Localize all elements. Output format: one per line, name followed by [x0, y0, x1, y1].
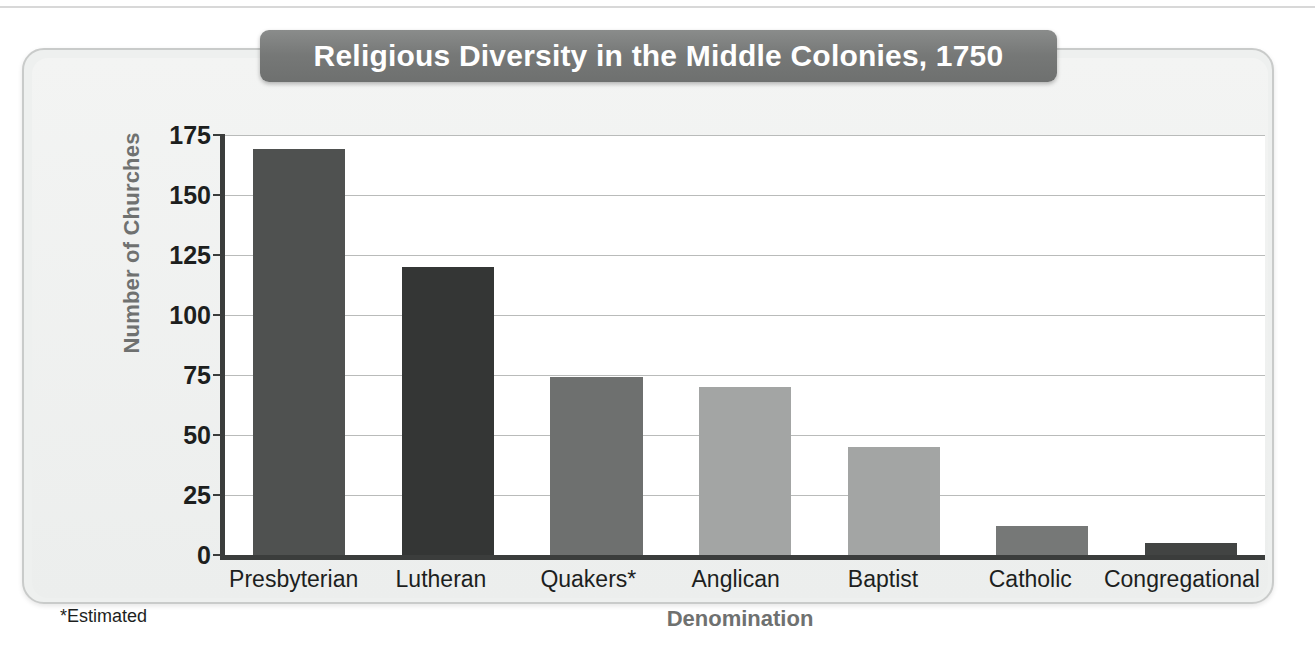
y-axis-tick-label: 0 — [121, 541, 211, 570]
x-axis-title: Denomination — [220, 606, 1260, 632]
bar-slot — [819, 135, 968, 555]
top-divider-rule — [0, 6, 1315, 8]
bars-layer — [225, 135, 1265, 555]
y-axis-tick-label: 100 — [121, 301, 211, 330]
y-axis-tick — [213, 194, 225, 196]
y-axis-tick-label: 125 — [121, 241, 211, 270]
bar-slot — [374, 135, 523, 555]
chart-footnote: *Estimated — [60, 606, 147, 627]
y-axis-tick-label: 150 — [121, 181, 211, 210]
y-axis-tick — [213, 314, 225, 316]
y-axis-tick-label: 50 — [121, 421, 211, 450]
bar — [550, 377, 642, 555]
bar — [699, 387, 791, 555]
bar — [996, 526, 1088, 555]
y-axis-tick — [213, 134, 225, 136]
x-axis-tick-label: Anglican — [662, 566, 809, 593]
bar — [253, 149, 345, 555]
bar-slot — [1116, 135, 1265, 555]
plot-area: 0255075100125150175 — [220, 135, 1265, 560]
x-axis-tick-label: Lutheran — [367, 566, 514, 593]
bar-slot — [671, 135, 820, 555]
y-axis-tick — [213, 494, 225, 496]
x-axis-tick-label: Catholic — [957, 566, 1104, 593]
bar — [402, 267, 494, 555]
bar-slot — [522, 135, 671, 555]
x-axis-tick-label: Congregational — [1104, 566, 1260, 593]
bar-slot — [225, 135, 374, 555]
bar — [1145, 543, 1237, 555]
bar-slot — [968, 135, 1117, 555]
x-axis-tick-label: Quakers* — [515, 566, 662, 593]
y-axis-tick-label: 25 — [121, 481, 211, 510]
y-axis-tick — [213, 254, 225, 256]
bar — [848, 447, 940, 555]
chart-figure-panel: Number of Churches 0255075100125150175 P… — [22, 48, 1274, 604]
x-axis-tick-label: Presbyterian — [220, 566, 367, 593]
y-axis-tick — [213, 374, 225, 376]
chart-title: Religious Diversity in the Middle Coloni… — [314, 39, 1004, 73]
y-axis-tick-label: 75 — [121, 361, 211, 390]
x-axis-tick-labels: PresbyterianLutheranQuakers*AnglicanBapt… — [220, 566, 1260, 593]
chart-title-banner: Religious Diversity in the Middle Coloni… — [260, 30, 1057, 82]
y-axis-tick-label: 175 — [121, 121, 211, 150]
x-axis-tick-label: Baptist — [809, 566, 956, 593]
y-axis-tick — [213, 434, 225, 436]
y-axis-tick — [213, 554, 225, 556]
